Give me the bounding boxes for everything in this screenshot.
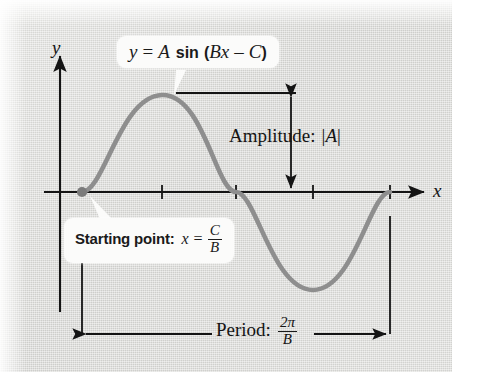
- starting-point-fraction: CB: [208, 223, 222, 255]
- formula-amplitude-symbol: A: [158, 41, 170, 62]
- formula-callout-pointer: [174, 70, 186, 95]
- formula-argument-c: C: [249, 41, 262, 62]
- starting-point-callout-pointer: [90, 196, 112, 219]
- formula-callout: y=Asin(Bx–C): [117, 36, 279, 68]
- amplitude-annotation-label: Amplitude:|A|: [229, 126, 341, 145]
- starting-point-numerator: C: [208, 223, 222, 240]
- formula-argument-x: x: [221, 41, 229, 62]
- period-numerator: 2π: [278, 315, 297, 332]
- starting-point-denominator: B: [208, 240, 222, 256]
- amplitude-abs-symbol: A: [325, 125, 337, 146]
- x-axis-label: x: [433, 181, 441, 200]
- formula-lhs: y: [129, 41, 137, 62]
- formula-equals: =: [142, 41, 153, 62]
- amplitude-label-text: Amplitude:: [229, 125, 316, 146]
- formula-argument-b: B: [209, 41, 221, 62]
- starting-point-prefix: Starting point:: [75, 230, 174, 247]
- sine-curve-figure: y x y=Asin(Bx–C) Starting point:x=CB Amp…: [0, 0, 478, 380]
- starting-point-equals: =: [194, 230, 203, 247]
- period-label-text: Period:: [216, 319, 271, 340]
- period-annotation-label: Period:2πB: [216, 316, 297, 348]
- period-denominator: B: [278, 332, 297, 348]
- formula-close-paren: ): [261, 44, 266, 61]
- period-fraction: 2πB: [278, 315, 297, 347]
- y-axis-label: y: [52, 38, 60, 57]
- amplitude-abs-close: |: [337, 125, 341, 146]
- formula-minus: –: [234, 41, 244, 62]
- formula-function: sin: [176, 44, 199, 61]
- starting-point-callout: Starting point:x=CB: [64, 218, 234, 263]
- starting-point-variable: x: [181, 230, 188, 247]
- starting-point-dot: [77, 187, 87, 197]
